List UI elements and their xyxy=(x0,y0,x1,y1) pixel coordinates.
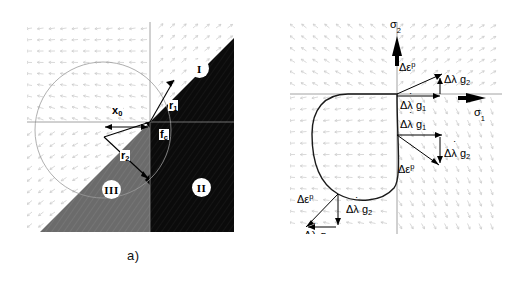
label-deps-low: Δεp xyxy=(297,194,313,205)
label-dlg1-top: Δλ g1 xyxy=(400,100,426,111)
label-r2: r2 xyxy=(120,150,130,161)
panel-b-plot-area: σ2 σ1 Δεp Δλ g2 Δλ g1 Δλ g1 Δλ g2 xyxy=(290,22,502,234)
label-dlg1-low: Δλ g1 xyxy=(304,230,330,234)
region-badge-II: II xyxy=(192,178,211,197)
panel-a-caption: a) xyxy=(127,248,139,263)
dot-accent-3: Δλ g xyxy=(444,147,466,159)
vectors-mid-corner xyxy=(397,132,443,165)
figure-container: I II III x0 r1 r2 fc a) xyxy=(0,0,527,281)
region-badge-I: I xyxy=(190,59,209,78)
label-dlg2-low: Δλ g2 xyxy=(346,204,372,215)
dot-accent-2: Δλ g xyxy=(400,118,422,130)
yield-surface-curve xyxy=(312,94,399,200)
label-fc: fc xyxy=(159,129,169,140)
label-deps-mid: Δεp xyxy=(398,164,414,175)
dot-accent-4: Δλ g xyxy=(346,203,368,215)
region-badge-III: III xyxy=(102,180,121,199)
label-x0: x0 xyxy=(111,105,123,116)
axis-label-sigma1: σ1 xyxy=(474,106,485,121)
overlay-b xyxy=(290,22,502,234)
label-dlg2-top: Δλ g2 xyxy=(444,74,470,85)
vectors-top-corner xyxy=(397,74,443,99)
trial-circle xyxy=(35,62,171,198)
dot-accent-5: Δλ g xyxy=(304,229,326,234)
panel-b: σ2 σ1 Δεp Δλ g2 Δλ g1 Δλ g1 Δλ g2 xyxy=(264,0,527,281)
axis-label-sigma2: σ2 xyxy=(390,22,401,33)
label-dlg2-mid: Δλ g2 xyxy=(444,148,470,159)
panel-a: I II III x0 r1 r2 fc a) xyxy=(0,0,263,281)
label-r1: r1 xyxy=(168,100,178,111)
overlay-a xyxy=(27,22,234,232)
label-deps-top: Δεp xyxy=(399,62,415,73)
label-dlg1-mid: Δλ g1 xyxy=(400,119,426,130)
panel-a-plot-area: I II III x0 r1 r2 fc xyxy=(27,22,234,232)
sigma1-axis-arrow xyxy=(458,93,486,103)
